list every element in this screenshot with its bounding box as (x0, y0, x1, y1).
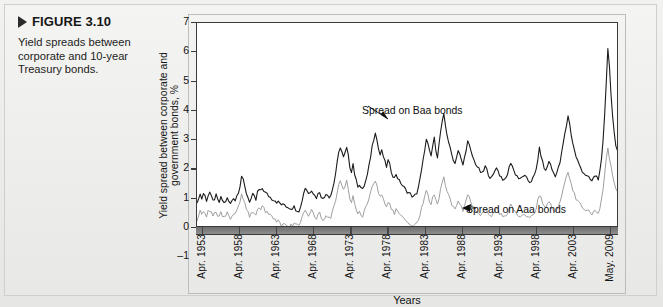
x-tick-mark (350, 227, 351, 234)
series-line-baa (197, 49, 618, 212)
y-tick-mark (191, 168, 196, 169)
y-tick-mark (191, 81, 196, 82)
figure-caption-text: Yield spreads between corporate and 10-y… (18, 36, 158, 77)
x-tick-label: May. 2009 (604, 234, 615, 282)
x-tick-label: Apr. 1998 (530, 234, 541, 279)
y-tick-mark (191, 110, 196, 111)
y-tick-mark (191, 198, 196, 199)
triangle-right-icon (18, 16, 27, 28)
annotation-baa-label: Spread on Baa bonds (362, 105, 463, 116)
y-tick-label: 5 (167, 74, 189, 86)
y-tick-label: 4 (167, 103, 189, 115)
x-tick-mark (499, 227, 500, 234)
y-tick-label: –1 (167, 249, 189, 261)
x-tick-mark (387, 227, 388, 234)
x-tick-mark (276, 227, 277, 234)
x-tick-label: Apr. 1968 (307, 234, 318, 279)
y-tick-label: 3 (167, 132, 189, 144)
figure-number-label: FIGURE 3.10 (32, 14, 111, 29)
x-tick-label: Apr. 1993 (493, 234, 504, 279)
y-tick-label: 0 (167, 220, 189, 232)
figure-heading: FIGURE 3.10 (18, 14, 158, 29)
y-tick-label: 7 (167, 15, 189, 27)
x-tick-mark (313, 227, 314, 234)
y-tick-label: 1 (167, 191, 189, 203)
x-tick-label: Apr. 1978 (381, 234, 392, 279)
x-tick-label: Apr. 1958 (233, 234, 244, 279)
y-tick-label: 2 (167, 161, 189, 173)
x-tick-mark (462, 227, 463, 234)
annotation-aaa: Spread on Aaa bonds (466, 204, 566, 215)
x-tick-mark (610, 227, 611, 234)
x-tick-label: Apr. 1983 (419, 234, 430, 279)
annotation-aaa-label: Spread on Aaa bonds (466, 204, 566, 215)
plot-wrapper: 76543210–1 Apr. 1953Apr. 1958Apr. 1963Ap… (196, 22, 618, 227)
x-tick-mark (425, 227, 426, 234)
y-tick-mark (191, 22, 196, 23)
annotation-baa: Spread on Baa bonds (362, 105, 463, 116)
y-tick-label: 6 (167, 44, 189, 56)
chart-lines-svg (197, 23, 618, 227)
x-tick-mark (239, 227, 240, 234)
x-tick-mark (536, 227, 537, 234)
x-tick-label: Apr. 1973 (344, 234, 355, 279)
plot-area (196, 22, 618, 227)
y-tick-mark (191, 51, 196, 52)
x-tick-mark (202, 227, 203, 234)
x-tick-label: Apr. 1953 (196, 234, 207, 279)
x-tick-label: Apr. 1988 (456, 234, 467, 279)
x-tick-label: Apr. 2003 (567, 234, 578, 279)
x-tick-label: Apr. 1963 (270, 234, 281, 279)
x-axis-title: Years (196, 294, 618, 306)
figure-root: FIGURE 3.10 Yield spreads between corpor… (0, 0, 663, 307)
series-line-aaa (197, 148, 618, 227)
x-tick-mark (573, 227, 574, 234)
chart-block: Yield spread between corporate and gover… (160, 10, 655, 298)
figure-caption-block: FIGURE 3.10 Yield spreads between corpor… (18, 14, 158, 77)
y-tick-mark (191, 139, 196, 140)
